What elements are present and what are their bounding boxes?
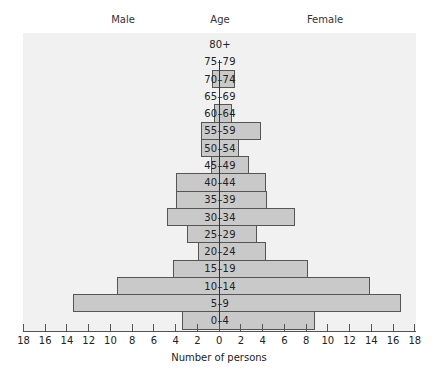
x-tick-label: 6 <box>151 335 157 346</box>
age-label: 70–74 <box>204 73 235 84</box>
x-tick-label: 2 <box>238 335 244 346</box>
x-tick <box>262 324 263 331</box>
x-tick <box>23 324 24 331</box>
x-tick-label: 8 <box>129 335 135 346</box>
x-tick <box>393 324 394 331</box>
x-tick-label: 12 <box>343 335 356 346</box>
x-tick <box>306 324 307 331</box>
age-label: 75–79 <box>204 56 235 67</box>
age-label: 65–69 <box>204 90 235 101</box>
x-tick-label: 10 <box>104 335 117 346</box>
x-tick <box>88 324 89 331</box>
x-tick-label: 14 <box>365 335 378 346</box>
x-tick <box>66 324 67 331</box>
male-bar <box>73 294 220 312</box>
x-tick-label: 6 <box>281 335 287 346</box>
x-tick <box>240 324 241 331</box>
age-header: Age <box>210 14 229 25</box>
age-label: 80+ <box>209 39 231 50</box>
male-header: Male <box>111 14 135 25</box>
age-label: 15–19 <box>204 263 235 274</box>
x-tick <box>414 324 415 331</box>
female-bar <box>219 311 315 329</box>
age-label: 60–64 <box>204 108 235 119</box>
x-tick-label: 10 <box>321 335 334 346</box>
age-label: 55–59 <box>204 125 235 136</box>
female-header: Female <box>307 14 343 25</box>
x-tick <box>175 324 176 331</box>
x-tick-label: 18 <box>17 335 30 346</box>
x-tick-label: 4 <box>259 335 265 346</box>
x-tick <box>349 324 350 331</box>
age-label: 25–29 <box>204 228 235 239</box>
x-tick <box>284 324 285 331</box>
age-label: 30–34 <box>204 211 235 222</box>
female-bar <box>219 294 401 312</box>
x-tick-label: 12 <box>82 335 95 346</box>
age-label: 45–49 <box>204 159 235 170</box>
x-tick-label: 0 <box>216 335 222 346</box>
x-tick <box>132 324 133 331</box>
x-tick <box>327 324 328 331</box>
x-tick <box>197 324 198 331</box>
age-label: 20–24 <box>204 246 235 257</box>
x-tick-label: 16 <box>387 335 400 346</box>
x-tick <box>371 324 372 331</box>
x-tick-label: 18 <box>408 335 421 346</box>
x-tick <box>153 324 154 331</box>
age-label: 50–54 <box>204 142 235 153</box>
x-tick <box>219 324 220 331</box>
age-label: 10–14 <box>204 280 235 291</box>
female-bar <box>219 277 370 295</box>
x-tick-label: 8 <box>303 335 309 346</box>
x-axis-line <box>23 331 416 332</box>
x-tick-label: 16 <box>39 335 52 346</box>
x-axis-label: Number of persons <box>171 352 267 363</box>
x-tick <box>45 324 46 331</box>
x-tick-label: 2 <box>194 335 200 346</box>
age-label: 35–39 <box>204 194 235 205</box>
x-tick-label: 14 <box>61 335 74 346</box>
x-tick-label: 4 <box>172 335 178 346</box>
x-tick <box>110 324 111 331</box>
age-label: 5–9 <box>211 297 229 308</box>
age-label: 40–44 <box>204 177 235 188</box>
age-label: 0–4 <box>211 315 229 326</box>
